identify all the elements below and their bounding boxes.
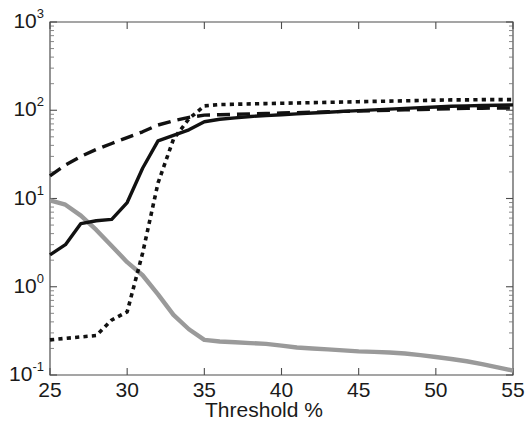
x-axis-title: Threshold % [0, 398, 528, 422]
x-tick-label: 25 [20, 379, 80, 400]
x-tick-label: 35 [174, 379, 234, 400]
y-tick-label: 100 [13, 274, 44, 296]
plot-canvas [0, 0, 528, 429]
axis-frame [50, 22, 513, 375]
y-tick-label: 103 [13, 9, 44, 31]
plot-border [50, 22, 513, 375]
y-tick-exponent: 1 [37, 183, 44, 198]
y-tick-exponent: 2 [37, 94, 44, 109]
y-tick-label: 102 [13, 97, 44, 119]
x-tick-label: 50 [406, 379, 466, 400]
series-dotted-black [50, 100, 513, 340]
y-tick-mantissa: 10 [13, 274, 36, 297]
chart-figure: 10-1100101102103 25303540455055 Threshol… [0, 0, 528, 429]
x-tick-label: 30 [97, 379, 157, 400]
series-solid-gray [50, 200, 513, 370]
y-tick-label: 101 [13, 186, 44, 208]
x-tick-label: 45 [329, 379, 389, 400]
y-tick-exponent: 0 [37, 271, 44, 286]
x-tick-label: 55 [483, 379, 528, 400]
series-dashed-black [50, 108, 513, 176]
y-tick-exponent: -1 [32, 359, 44, 374]
y-tick-mantissa: 10 [13, 9, 36, 32]
x-tick-label: 40 [252, 379, 312, 400]
tick-marks [50, 22, 513, 375]
series-solid-black [50, 105, 513, 255]
y-tick-mantissa: 10 [13, 186, 36, 209]
y-tick-mantissa: 10 [13, 97, 36, 120]
data-series [50, 100, 513, 371]
y-tick-exponent: 3 [37, 6, 44, 21]
